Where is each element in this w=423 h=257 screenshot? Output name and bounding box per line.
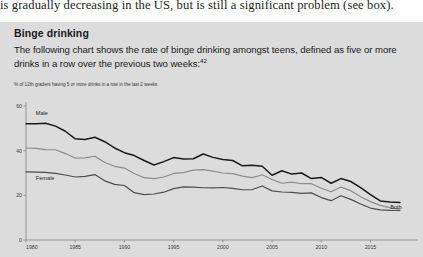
binge-drinking-line-chart: 020406019801985199019952000200520102015M… <box>0 82 423 257</box>
box-title: Binge drinking <box>14 27 89 39</box>
series-label-both: Both <box>390 204 402 210</box>
series-line-male <box>26 123 400 202</box>
feature-box: Binge drinking The following chart shows… <box>0 22 423 257</box>
x-tick-label: 2005 <box>266 244 278 250</box>
x-tick-label: 1980 <box>26 244 38 250</box>
x-tick-label: 1985 <box>69 244 81 250</box>
footnote-marker: 42 <box>200 56 207 63</box>
y-tick-label: 20 <box>16 192 22 198</box>
series-label-male: Male <box>36 110 48 116</box>
y-tick-label: 0 <box>19 237 22 243</box>
x-tick-label: 1995 <box>168 244 180 250</box>
series-line-female <box>26 172 400 211</box>
x-tick-label: 1990 <box>119 244 131 250</box>
series-label-female: Female <box>36 175 55 181</box>
y-tick-label: 60 <box>16 103 22 109</box>
x-tick-label: 2000 <box>217 244 229 250</box>
y-tick-label: 40 <box>16 148 22 154</box>
box-body-line-1: The following chart shows the rate of bi… <box>14 44 372 55</box>
x-tick-label: 2010 <box>315 244 327 250</box>
chart-container: % of 12th graders having 5 or more drink… <box>0 82 423 257</box>
running-body-text: is gradually decreasing in the US, but i… <box>0 0 423 16</box>
box-body: The following chart shows the rate of bi… <box>14 43 404 70</box>
x-tick-label: 2015 <box>365 244 377 250</box>
